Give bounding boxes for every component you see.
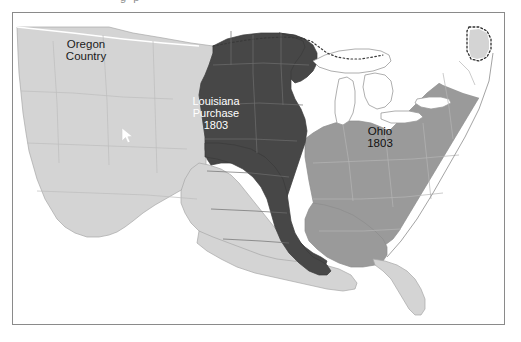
region-maine-light-gray: [469, 29, 489, 59]
map-frame-border: Oregon Country Louisiana Purchase 1803 O…: [12, 12, 505, 325]
great-lake-superior: [313, 49, 391, 73]
cropped-caption-text: g p: [120, 0, 240, 3]
region-florida-light-gray: [373, 259, 425, 315]
great-lake-michigan: [335, 77, 355, 125]
great-lake-erie: [381, 111, 423, 123]
map-figure: g p: [0, 0, 521, 342]
mouse-pointer-icon: [121, 127, 135, 145]
great-lake-huron: [363, 73, 393, 109]
united-states-map-graphic: [13, 13, 504, 324]
